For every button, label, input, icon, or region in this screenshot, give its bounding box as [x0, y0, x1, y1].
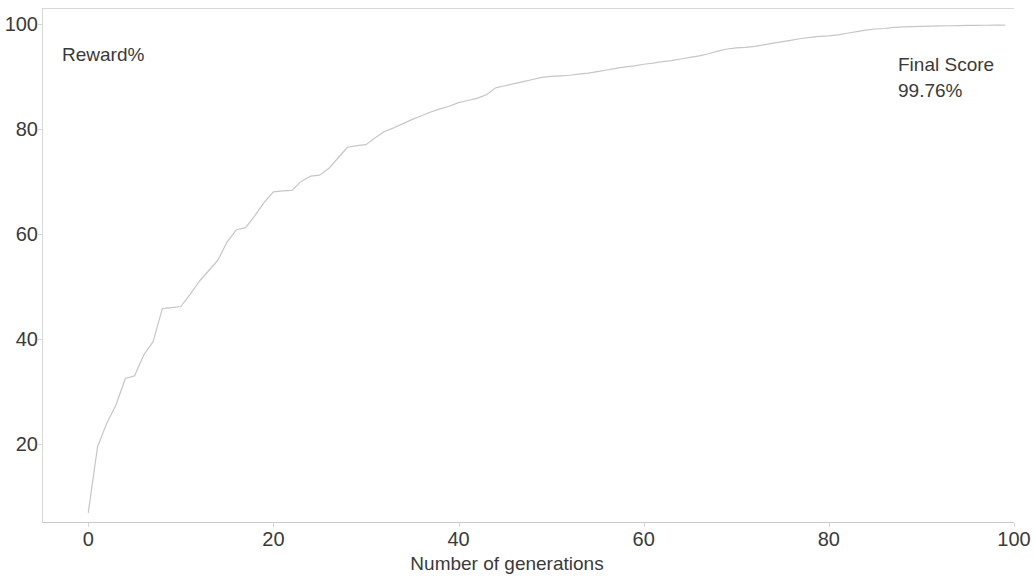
y-tick-label: 100 [4, 14, 38, 34]
reward-curve-line [88, 25, 1004, 512]
x-tick-label: 80 [799, 528, 859, 550]
reward-curve-svg [42, 8, 1014, 523]
x-tick-mark [1014, 523, 1015, 527]
x-tick-label: 20 [243, 528, 303, 550]
y-tick-mark [38, 339, 42, 340]
x-tick-mark [459, 523, 460, 527]
final-score-annotation: Final Score 99.76% [898, 52, 994, 104]
x-tick-label: 60 [614, 528, 674, 550]
x-tick-mark [829, 523, 830, 527]
y-tick-mark [38, 24, 42, 25]
x-tick-mark [644, 523, 645, 527]
y-tick-mark [38, 234, 42, 235]
x-axis-title: Number of generations [0, 553, 1014, 575]
x-tick-mark [273, 523, 274, 527]
y-tick-mark [38, 444, 42, 445]
x-tick-mark [88, 523, 89, 527]
final-score-value: 99.76% [898, 78, 994, 104]
y-axis-tick-labels: 20406080100 [0, 0, 38, 577]
x-tick-label: 0 [58, 528, 118, 550]
y-tick-label: 60 [4, 224, 38, 244]
x-tick-label: 40 [429, 528, 489, 550]
y-tick-label: 40 [4, 329, 38, 349]
y-axis-caption: Reward% [62, 44, 144, 66]
x-tick-label: 100 [984, 528, 1035, 550]
y-tick-label: 80 [4, 119, 38, 139]
y-tick-mark [38, 129, 42, 130]
y-tick-label: 20 [4, 434, 38, 454]
final-score-title: Final Score [898, 52, 994, 78]
